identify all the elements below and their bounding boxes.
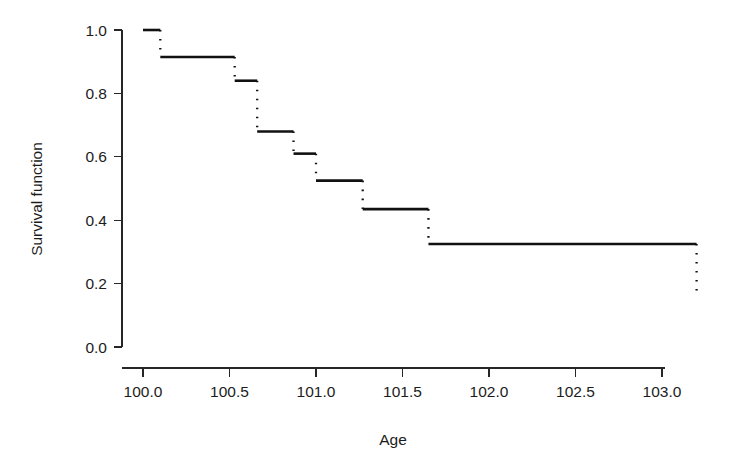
y-tick-label: 0.0 bbox=[85, 339, 107, 356]
x-axis-title: Age bbox=[379, 431, 407, 448]
plot-area: 0.00.20.40.60.81.0 100.0100.5101.0101.51… bbox=[0, 0, 734, 471]
x-tick-label: 100.0 bbox=[124, 383, 163, 400]
y-axis-title: Survival function bbox=[28, 142, 45, 256]
x-tick-label: 102.0 bbox=[470, 383, 509, 400]
x-tick-label: 101.5 bbox=[383, 383, 422, 400]
x-tick-label: 100.5 bbox=[210, 383, 249, 400]
step-curve-layer bbox=[143, 30, 697, 293]
y-tick-label: 0.6 bbox=[85, 148, 107, 165]
y-tick-layer: 0.00.20.40.60.81.0 bbox=[85, 22, 122, 356]
x-tick-label: 103.0 bbox=[643, 383, 682, 400]
x-tick-layer: 100.0100.5101.0101.5102.0102.5103.0 bbox=[124, 368, 682, 400]
x-tick-label: 101.0 bbox=[297, 383, 336, 400]
axes-layer bbox=[122, 30, 665, 368]
y-tick-label: 1.0 bbox=[85, 22, 107, 39]
y-tick-label: 0.2 bbox=[85, 275, 107, 292]
y-tick-label: 0.8 bbox=[85, 85, 107, 102]
survival-function-chart: 0.00.20.40.60.81.0 100.0100.5101.0101.51… bbox=[0, 0, 734, 471]
y-tick-label: 0.4 bbox=[85, 212, 107, 229]
x-tick-label: 102.5 bbox=[556, 383, 595, 400]
